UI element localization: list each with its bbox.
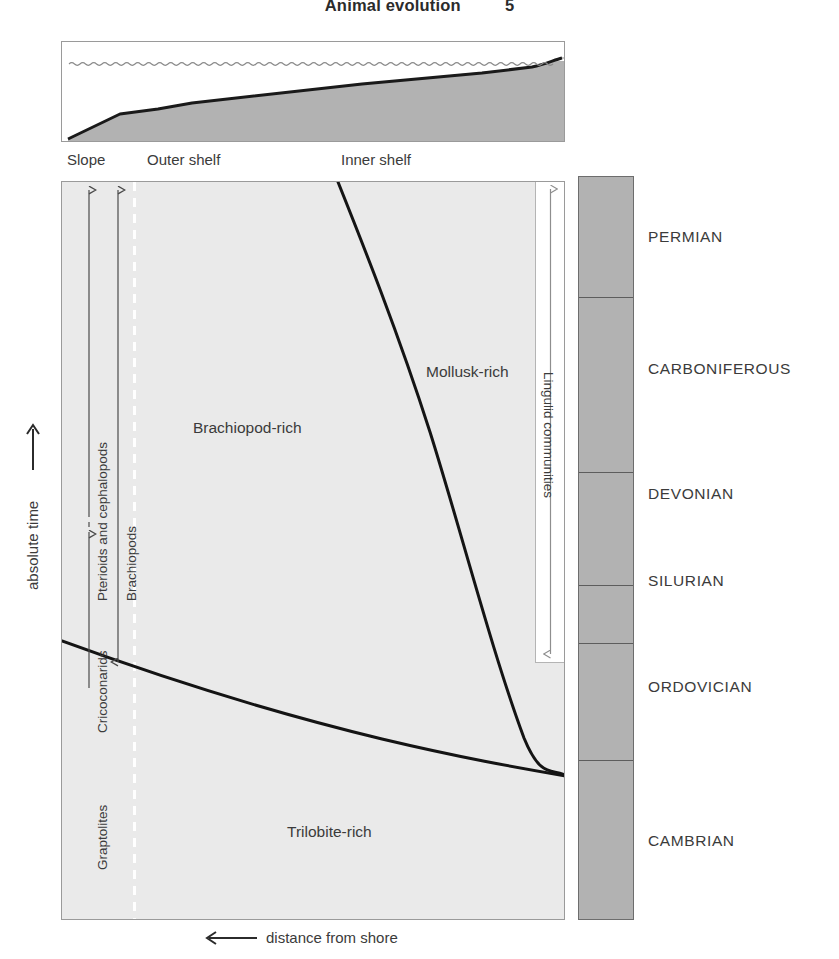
x-axis-caption: distance from shore <box>266 929 398 946</box>
shelf-cross-section <box>61 41 565 142</box>
geo-band-silurian <box>579 586 633 644</box>
zone-label-outer-shelf: Outer shelf <box>147 151 220 168</box>
brachiopod-mollusk-boundary <box>338 182 564 776</box>
cross-section-drawing <box>62 42 564 141</box>
geo-label-silurian: SILURIAN <box>648 572 724 590</box>
range-label-cricoconarids: Cricoconarids <box>95 650 110 733</box>
geo-band-permian <box>579 177 633 298</box>
running-head-title: Animal evolution <box>325 0 461 14</box>
figure-root: Animal evolution5 Slope Outer shelf Inne… <box>0 0 839 959</box>
main-plot: Pterioids and cephalopods Cricoconarids … <box>61 181 565 920</box>
range-label-lingulid-communities: Lingulid communities <box>541 372 556 498</box>
geo-label-permian: PERMIAN <box>648 228 723 246</box>
trilobite-brachiopod-boundary <box>62 641 564 776</box>
absolute-time-arrow <box>24 420 42 472</box>
page-number: 5 <box>505 0 514 15</box>
range-label-pterioids-and-cephalopods: Pterioids and cephalopods <box>95 442 110 601</box>
distance-from-shore-arrow <box>203 930 259 946</box>
field-label-brachiopod-rich: Brachiopod-rich <box>193 419 302 437</box>
field-label-mollusk-rich: Mollusk-rich <box>426 363 509 381</box>
geo-band-ordovician <box>579 644 633 761</box>
geo-band-carboniferous <box>579 298 633 473</box>
geo-label-carboniferous: CARBONIFEROUS <box>648 360 791 378</box>
zone-label-inner-shelf: Inner shelf <box>341 151 411 168</box>
field-label-trilobite-rich: Trilobite-rich <box>287 823 372 841</box>
running-head: Animal evolution5 <box>0 0 839 15</box>
geologic-time-column <box>578 176 634 920</box>
geo-label-ordovician: ORDOVICIAN <box>648 678 752 696</box>
range-label-brachiopods: Brachiopods <box>124 526 139 601</box>
geo-band-devonian <box>579 473 633 586</box>
geo-label-devonian: DEVONIAN <box>648 485 734 503</box>
sea-surface-wave-line <box>69 63 553 66</box>
geo-label-cambrian: CAMBRIAN <box>648 832 735 850</box>
range-label-graptolites: Graptolites <box>95 805 110 870</box>
y-axis-caption: absolute time <box>24 501 41 590</box>
geo-band-cambrian <box>579 761 633 919</box>
zone-label-slope: Slope <box>67 151 105 168</box>
